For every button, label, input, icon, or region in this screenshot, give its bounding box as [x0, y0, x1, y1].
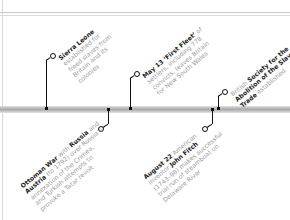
event-label: Sierra Leoneestablished forfreed slaves …: [57, 21, 122, 84]
timeline-marker-dot: [45, 107, 48, 110]
top-divider: [0, 12, 290, 16]
event-stem: [108, 110, 109, 124]
event-stem: [130, 78, 131, 107]
event-label: Ottoman War with Russia andAustria (to 1…: [19, 120, 119, 213]
event-label: May 13 ‘First Fleet’ ofsettlers, includi…: [141, 25, 218, 96]
event-circle-icon: [50, 53, 56, 59]
event-stem: [218, 96, 219, 107]
event-stem: [46, 60, 47, 107]
timeline-marker-dot: [217, 107, 220, 110]
event-label: British Society for theAbolition of the …: [229, 44, 290, 109]
timeline-marker-dot: [129, 107, 132, 110]
event-circle-icon: [134, 71, 140, 77]
event-circle-icon: [222, 89, 228, 95]
timeline-bar: [0, 106, 290, 113]
event-label: August 22 Americaninventor John Fitch(17…: [142, 119, 233, 204]
